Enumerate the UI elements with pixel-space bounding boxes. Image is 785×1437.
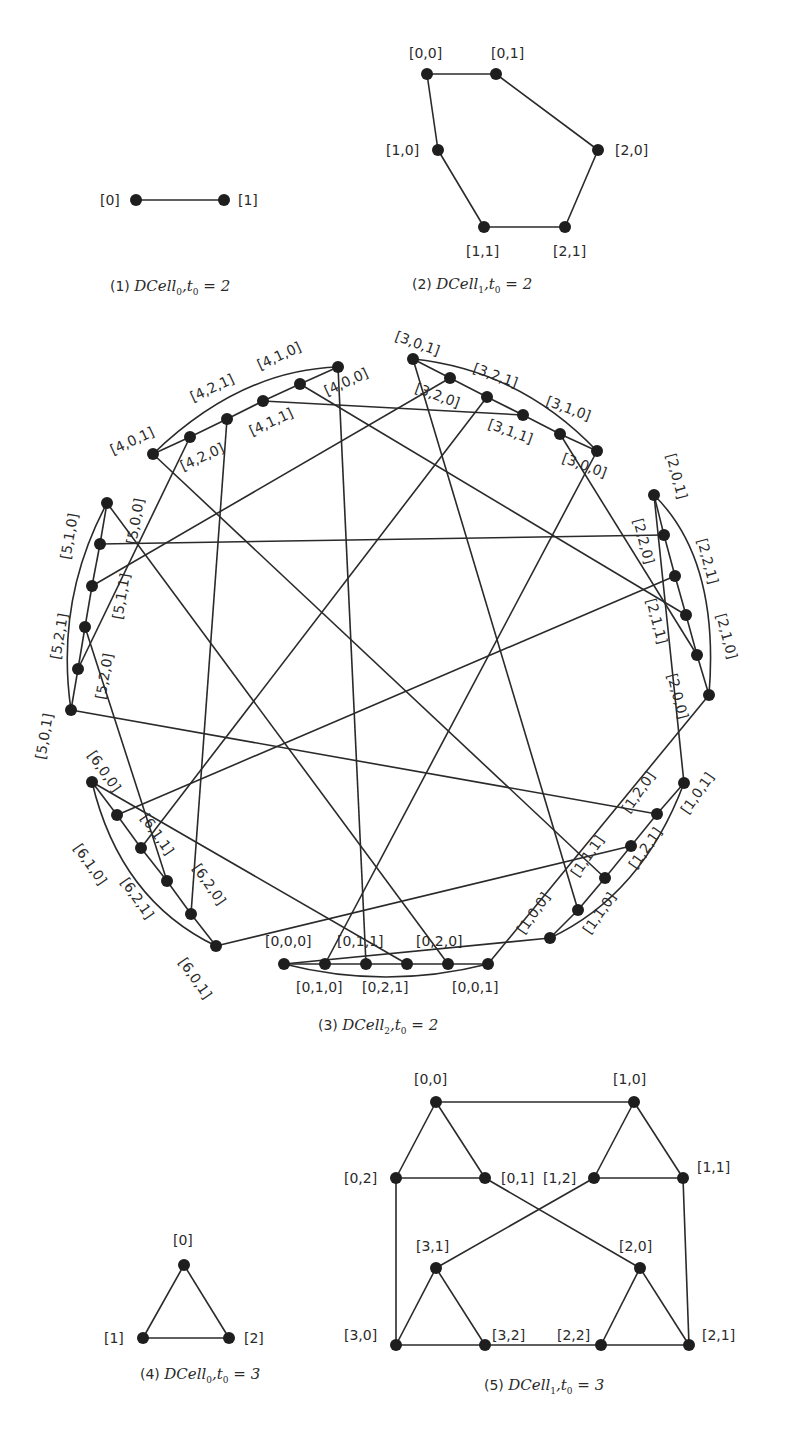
ring-node [481, 391, 493, 403]
ring-node [319, 958, 331, 970]
p5-node [430, 1096, 442, 1108]
ring-node [401, 958, 413, 970]
dcell-diagram-canvas: [0][1][0,0][0,1][2,0][2,1][1,1][1,0][0][… [0, 0, 785, 1437]
ring-node-label: [1,1,1] [567, 832, 607, 879]
ring-node-label: [6,2,0] [190, 861, 230, 908]
p2-edge [427, 74, 438, 150]
ring-node [135, 842, 147, 854]
p5-node [634, 1262, 646, 1274]
p5-node-label: [1,2] [543, 1170, 576, 1186]
ring-node [161, 875, 173, 887]
p5-node [430, 1262, 442, 1274]
ring-node [79, 621, 91, 633]
p5-node-label: [1,1] [697, 1159, 730, 1175]
p5-edge [594, 1102, 634, 1178]
p5-node-label: [0,2] [344, 1170, 377, 1186]
p2-node [432, 144, 444, 156]
ring-level2-link [338, 367, 366, 964]
ring-node-label: [3,0,1] [393, 328, 442, 359]
ring-node-label: [0,2,0] [416, 933, 463, 949]
labels-layer: [0][1][0,0][0,1][2,0][2,1][1,1][1,0][0][… [32, 45, 740, 1346]
ring-node-label: [3,1,1] [486, 416, 535, 447]
p5-node-label: [3,1] [416, 1238, 449, 1254]
ring-node-label: [6,0,1] [176, 955, 216, 1002]
ring-node [86, 580, 98, 592]
p2-node [478, 221, 490, 233]
svg-text:(5) DCell1,t0 = 3: (5) DCell1,t0 = 3 [484, 1376, 604, 1396]
ring-node-label: [4,2,1] [188, 371, 237, 405]
ring-node [111, 809, 123, 821]
p4-edge [184, 1265, 229, 1338]
p2-node [490, 68, 502, 80]
ring-node [651, 808, 663, 820]
ring-node-label: [0,0,0] [265, 933, 312, 949]
ring-chain-edge [153, 437, 190, 454]
ring-level2-link [71, 710, 657, 814]
svg-text:(4) DCell0,t0 = 3: (4) DCell0,t0 = 3 [140, 1365, 260, 1385]
p5-node-label: [2,2] [557, 1327, 590, 1343]
ring-node [680, 609, 692, 621]
p2-caption: (2) DCell1,t0 = 2 [412, 275, 532, 295]
p2-node-label: [0,0] [409, 45, 442, 61]
ring-node-label: [2,0,1] [663, 452, 691, 501]
p5-node [390, 1339, 402, 1351]
ring-node [599, 872, 611, 884]
ring-chain-edge [71, 669, 78, 710]
ring-node-label: [5,1,0] [57, 512, 81, 561]
p4-node [178, 1259, 190, 1271]
ring-node-label: [1,2,0] [618, 768, 658, 815]
ring-node-label: [5,0,0] [123, 497, 147, 546]
ring-node [444, 372, 456, 384]
p5-edge [634, 1102, 683, 1178]
p5-edge [640, 1268, 689, 1345]
ring-chain-edge [697, 655, 709, 695]
ring-node [648, 489, 660, 501]
p4-node-label: [2] [244, 1330, 264, 1346]
ring-node-label: [3,1,0] [544, 393, 593, 424]
edges-layer [67, 74, 710, 1345]
p5-node-label: [0,0] [414, 1071, 447, 1087]
dcell-figure: [0][1][0,0][0,1][2,0][2,1][1,1][1,0][0][… [0, 0, 785, 1437]
ring-node [72, 663, 84, 675]
ring-node-label: [4,1,1] [247, 405, 296, 439]
p3-caption: (3) DCell2,t0 = 2 [318, 1016, 438, 1036]
p5-node [479, 1172, 491, 1184]
ring-arc-edge [284, 964, 488, 977]
ring-level2-link [263, 401, 523, 415]
ring-node-label: [1,1,0] [579, 889, 619, 936]
p5-edge [485, 1178, 640, 1268]
p2-node [559, 221, 571, 233]
p5-node-label: [2,1] [702, 1327, 735, 1343]
p1-node [218, 194, 230, 206]
ring-node [407, 353, 419, 365]
ring-node [703, 689, 715, 701]
p5-caption: (5) DCell1,t0 = 3 [484, 1376, 604, 1396]
p1-node-label: [0] [100, 192, 120, 208]
ring-node [210, 940, 222, 952]
ring-node [554, 428, 566, 440]
p5-edge [683, 1178, 689, 1345]
p4-caption: (4) DCell0,t0 = 3 [140, 1365, 260, 1385]
ring-node [65, 704, 77, 716]
ring-level2-link [191, 419, 227, 914]
ring-chain-edge [227, 401, 263, 419]
ring-node [658, 529, 670, 541]
ring-node-label: [4,2,0] [178, 440, 227, 474]
p4-node-label: [1] [104, 1330, 124, 1346]
p2-node-label: [2,1] [553, 243, 586, 259]
ring-chain-edge [487, 397, 523, 415]
p1-caption: (1) DCell0,t0 = 2 [110, 277, 230, 297]
svg-text:(2) DCell1,t0 = 2: (2) DCell1,t0 = 2 [412, 275, 532, 295]
ring-node [360, 958, 372, 970]
ring-node-label: [1,0,0] [513, 889, 553, 936]
ring-node [544, 932, 556, 944]
p2-edge [565, 150, 598, 227]
p4-edge [143, 1265, 184, 1338]
ring-level2-link [78, 437, 190, 669]
ring-node [294, 378, 306, 390]
ring-node [678, 777, 690, 789]
ring-level2-link [100, 535, 664, 544]
p5-edge [436, 1178, 594, 1268]
p5-node-label: [2,0] [619, 1238, 652, 1254]
ring-chain-edge [686, 615, 697, 655]
